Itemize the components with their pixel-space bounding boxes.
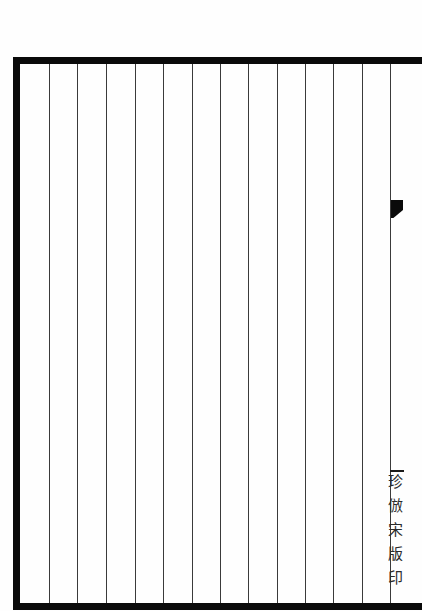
column-rule [163,64,164,603]
column-rule [135,64,136,603]
column-rule [49,64,50,603]
fish-tail-marker-icon [391,200,403,218]
column-rule [248,64,249,603]
column-rule [192,64,193,603]
column-rule [333,64,334,603]
top-border [13,57,422,64]
column-rule [106,64,107,603]
column-rule [362,64,363,603]
column-rule [77,64,78,603]
margin-dash [390,470,404,472]
bottom-border [13,603,422,610]
book-page: 珍倣宋版印 [0,0,422,611]
left-border [13,57,20,610]
column-rule [220,64,221,603]
margin-imprint-text: 珍倣宋版印 [391,474,407,594]
column-rule [277,64,278,603]
column-rule [305,64,306,603]
